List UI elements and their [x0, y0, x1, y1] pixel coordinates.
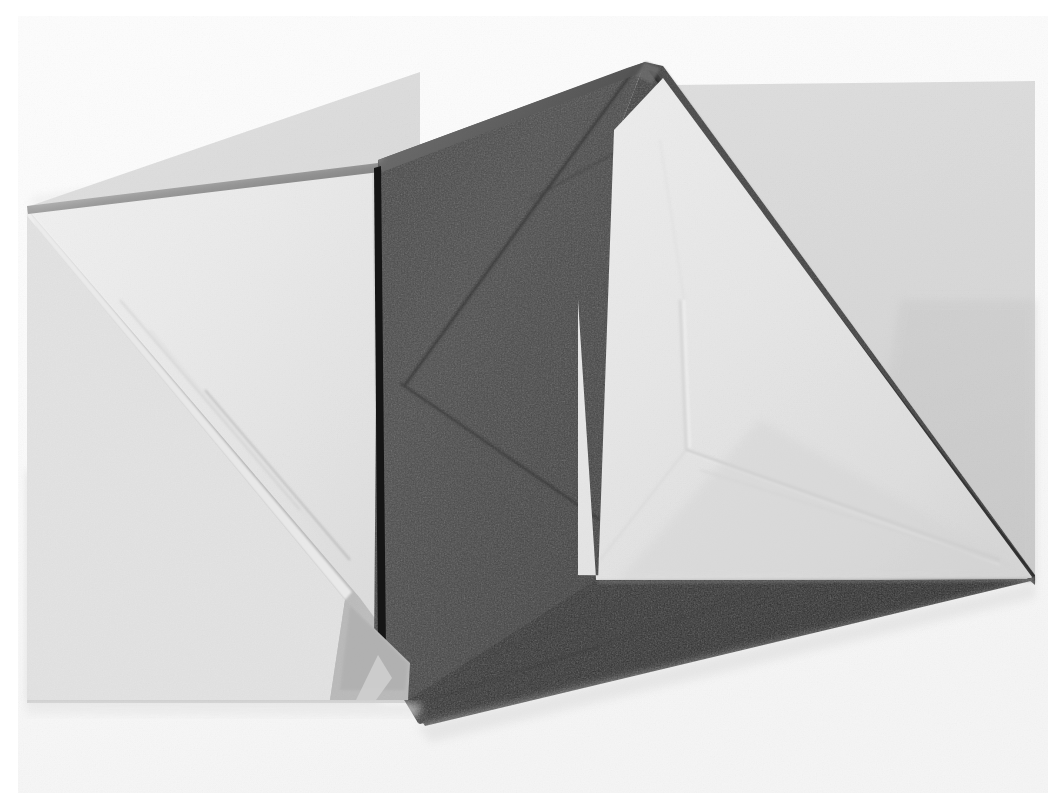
left-sheet-cast-shadow — [27, 703, 420, 716]
photograph-stage: Black-and-white photograph of two folded… — [0, 0, 1064, 809]
folded-paper-photograph — [0, 0, 1064, 809]
